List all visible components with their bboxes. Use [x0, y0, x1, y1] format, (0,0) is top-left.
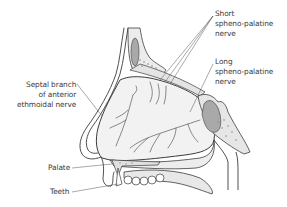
label-line: ethmoidal nerve — [17, 100, 76, 110]
label-teeth: Teeth — [50, 187, 69, 197]
label-line: nerve — [215, 77, 273, 87]
label-septal-branch-anterior-ethmoidal-nerve: Septal branch of anterior ethmoidal nerv… — [17, 80, 76, 110]
frontal-sinus — [131, 38, 139, 66]
label-short-sphenopalatine-nerve: Short spheno-palatine nerve — [215, 9, 273, 39]
label-long-sphenopalatine-nerve: Long spheno-palatine nerve — [215, 57, 273, 87]
label-line: Short — [215, 9, 273, 19]
label-palate: Palate — [48, 163, 70, 173]
label-line: nerve — [215, 29, 273, 39]
label-line: of anterior — [17, 90, 76, 100]
label-line: Palate — [48, 163, 70, 173]
label-line: Septal branch — [17, 80, 76, 90]
label-line: spheno-palatine — [215, 19, 273, 29]
label-line: Teeth — [50, 187, 69, 197]
label-line: Long — [215, 57, 273, 67]
label-line: spheno-palatine — [215, 67, 273, 77]
